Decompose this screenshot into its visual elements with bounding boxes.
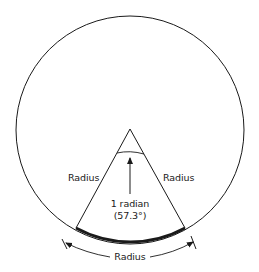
right-dimension-arrow: [150, 242, 193, 257]
right-radius-label: Radius: [163, 173, 194, 183]
left-dimension-tick: [62, 239, 67, 249]
angle-label-degrees: (57.3°): [114, 211, 147, 221]
angle-label-radian: 1 radian: [111, 199, 150, 209]
left-radius-label: Radius: [68, 173, 99, 183]
radian-diagram: Radius Radius 1 radian (57.3°) Radius: [0, 0, 259, 272]
arc-length-label: Radius: [114, 252, 145, 262]
angle-arc: [117, 152, 144, 154]
left-dimension-arrow: [66, 243, 110, 257]
arc-segment: [76, 228, 185, 242]
diagram-svg: [0, 0, 259, 272]
